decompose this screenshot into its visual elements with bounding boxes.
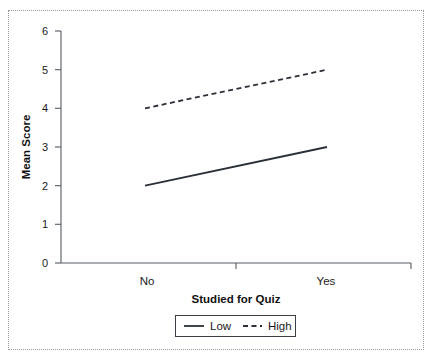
chart-legend: Low High — [176, 316, 296, 337]
y-tick-label-5: 5 — [42, 64, 48, 76]
y-tick-label-3: 3 — [42, 141, 48, 153]
y-axis: 6 5 4 3 2 1 0 Mean Score — [20, 25, 61, 269]
x-axis: No Yes Studied for Quiz — [61, 263, 411, 305]
y-tick-label-1: 1 — [42, 218, 48, 230]
y-tick-label-6: 6 — [42, 25, 48, 37]
series-line-low — [145, 147, 327, 186]
y-tick-label-2: 2 — [42, 180, 48, 192]
series-line-high — [145, 70, 327, 109]
y-tick-label-4: 4 — [42, 102, 48, 114]
legend-label-high: High — [268, 320, 292, 332]
x-axis-title: Studied for Quiz — [192, 293, 281, 305]
legend-label-low: Low — [210, 320, 232, 332]
y-axis-title: Mean Score — [20, 115, 32, 180]
x-tick-label-no: No — [140, 275, 155, 287]
x-tick-label-yes: Yes — [317, 275, 336, 287]
interaction-line-chart: 6 5 4 3 2 1 0 Mean Score No Yes Studied … — [0, 0, 436, 364]
chart-svg: 6 5 4 3 2 1 0 Mean Score No Yes Studied … — [0, 0, 436, 364]
series-group — [145, 70, 327, 186]
y-tick-label-0: 0 — [42, 257, 48, 269]
